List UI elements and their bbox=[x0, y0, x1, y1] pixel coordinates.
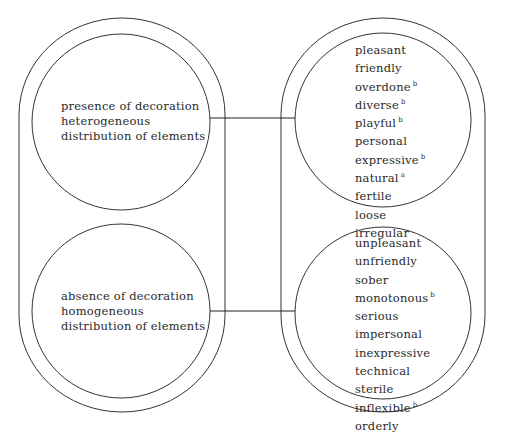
list-item: friendly bbox=[355, 58, 425, 76]
label-line: distribution of elements bbox=[61, 129, 205, 144]
list-item: personal bbox=[355, 131, 425, 149]
list-item: fertile bbox=[355, 186, 425, 204]
label-line: presence of decoration bbox=[61, 99, 205, 114]
list-item: loose bbox=[355, 205, 425, 223]
left-bottom-label: absence of decoration homogeneous distri… bbox=[61, 289, 205, 334]
right-top-word-list: pleasant friendly overdoneb diverseb pla… bbox=[355, 40, 425, 241]
list-item: sterile bbox=[355, 379, 435, 397]
list-item: pleasant bbox=[355, 40, 425, 58]
label-line: distribution of elements bbox=[61, 319, 205, 334]
right-bottom-word-list: unpleasant unfriendly sober monotonousb … bbox=[355, 233, 435, 432]
list-item: overdoneb bbox=[355, 77, 425, 95]
label-line: absence of decoration bbox=[61, 289, 205, 304]
list-item: serious bbox=[355, 306, 435, 324]
list-item: playfulb bbox=[355, 113, 425, 131]
left-top-label: presence of decoration heterogeneous dis… bbox=[61, 99, 205, 144]
list-item: inexpressive bbox=[355, 343, 435, 361]
label-line: heterogeneous bbox=[61, 114, 205, 129]
list-item: monotonousb bbox=[355, 288, 435, 306]
list-item: orderly bbox=[355, 416, 435, 432]
list-item: inflexibleb bbox=[355, 398, 435, 416]
list-item: sober bbox=[355, 270, 435, 288]
list-item: unfriendly bbox=[355, 251, 435, 269]
list-item: technical bbox=[355, 361, 435, 379]
list-item: expressiveb bbox=[355, 150, 425, 168]
list-item: unpleasant bbox=[355, 233, 435, 251]
left-outer-stadium bbox=[19, 18, 225, 412]
label-line: homogeneous bbox=[61, 304, 205, 319]
list-item: naturala bbox=[355, 168, 425, 186]
list-item: diverseb bbox=[355, 95, 425, 113]
list-item: impersonal bbox=[355, 324, 435, 342]
